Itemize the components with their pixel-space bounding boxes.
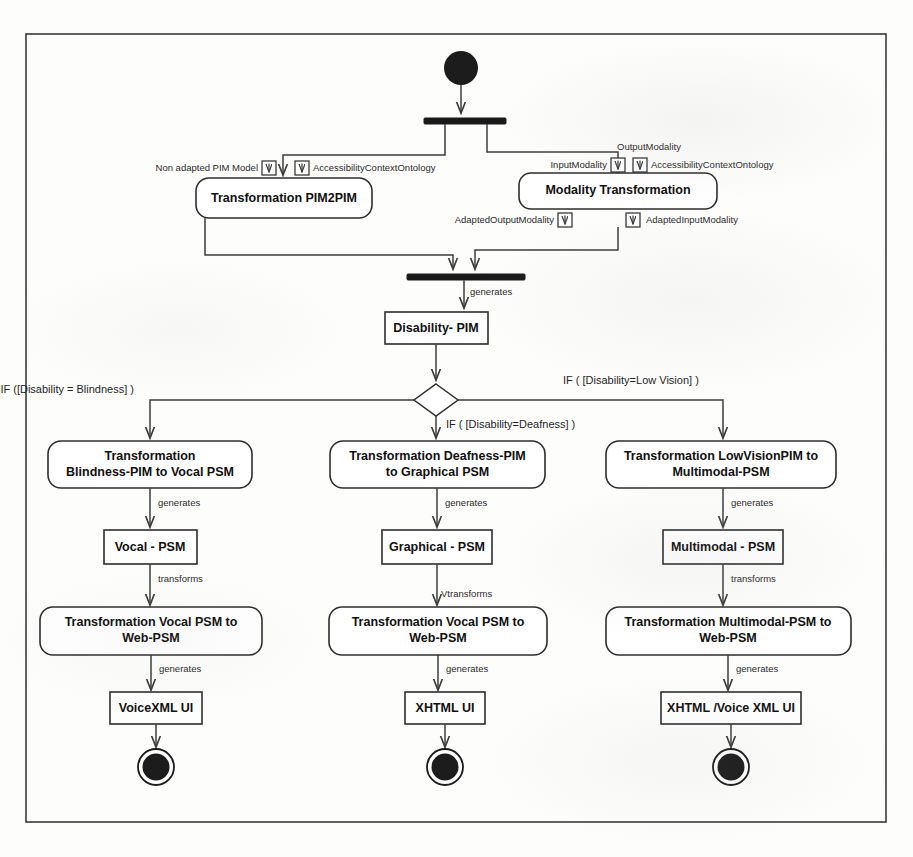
action-transformation-lowvision-pim-to-multimodal-psm[interactable]: Transformation LowVisionPIM to Multimoda… — [606, 441, 836, 488]
pin-input-modality: InputModality — [550, 158, 625, 172]
object-node-xhtml-voice-ui[interactable]: XHTML /Voice XML UI — [661, 692, 801, 724]
pin-accessibility-context-ontology-left: AccessibilityContextOntology — [295, 161, 436, 175]
edge-label-transforms-graphical: Vtransforms — [441, 588, 492, 599]
object-label-graphical-psm: Graphical - PSM — [389, 540, 485, 554]
action-label-deafness-line1: Transformation Deafness-PIM — [349, 449, 525, 463]
pin-adapted-output-modality: AdaptedOutputModality — [455, 213, 572, 227]
pin-label-accessibility-context-ontology-right: AccessibilityContextOntology — [651, 159, 774, 170]
pin-accessibility-context-ontology-right: AccessibilityContextOntology — [633, 158, 774, 172]
edge-pim2pim-to-join — [205, 218, 453, 269]
object-node-vocal-psm[interactable]: Vocal - PSM — [104, 530, 197, 564]
activity-diagram: Non adapted PIM Model AccessibilityConte… — [0, 0, 913, 857]
action-transformation-blindness-pim-to-vocal-psm[interactable]: Transformation Blindness-PIM to Vocal PS… — [48, 441, 252, 488]
action-label-deafness-line2: to Graphical PSM — [386, 465, 490, 479]
action-label-multimodal-web-line1: Transformation Multimodal-PSM to — [625, 615, 832, 629]
action-label-modality-transformation: Modality Transformation — [545, 183, 690, 197]
object-label-multimodal-psm: Multimodal - PSM — [671, 540, 775, 554]
action-label-lowvision-line1: Transformation LowVisionPIM to — [624, 449, 819, 463]
action-modality-transformation[interactable]: Modality Transformation — [519, 173, 717, 209]
edge-label-generates-disability-pim: generates — [470, 286, 513, 297]
object-node-voicexml-ui[interactable]: VoiceXML UI — [110, 692, 202, 724]
edge-label-generates-multimodal: generates — [731, 497, 774, 508]
guard-label-deafness: IF ( [Disability=Deafness] ) — [446, 418, 575, 430]
action-label-graphical-web-line2: Web-PSM — [409, 631, 466, 645]
pin-label-input-modality: InputModality — [550, 159, 607, 170]
guard-label-blindness: IF ([Disability = Blindness] ) — [0, 383, 134, 395]
pin-label-non-adapted-pim-model: Non adapted PIM Model — [156, 162, 258, 173]
action-label-graphical-web-line1: Transformation Vocal PSM to — [352, 615, 525, 629]
object-label-xhtml-ui: XHTML UI — [416, 701, 475, 715]
final-node-right — [713, 749, 749, 785]
action-label-vocal-web-line1: Transformation Vocal PSM to — [65, 615, 238, 629]
edge-label-generates-voicexml: generates — [159, 663, 202, 674]
pin-non-adapted-pim-model: Non adapted PIM Model — [156, 161, 276, 175]
pin-label-adapted-output-modality: AdaptedOutputModality — [455, 214, 555, 225]
final-node-left — [138, 749, 174, 785]
edge-label-transforms-vocal: transforms — [158, 573, 203, 584]
action-label-transformation-pim2pim: Transformation PIM2PIM — [211, 191, 357, 205]
edge-label-generates-graphical: generates — [445, 497, 488, 508]
object-node-xhtml-ui[interactable]: XHTML UI — [405, 692, 485, 724]
join-bar-middle — [407, 274, 525, 280]
action-label-lowvision-line2: Multimodal-PSM — [672, 465, 769, 479]
pin-label-adapted-input-modality: AdaptedInputModality — [646, 214, 738, 225]
action-transformation-deafness-pim-to-graphical-psm[interactable]: Transformation Deafness-PIM to Graphical… — [330, 441, 545, 488]
action-transformation-pim2pim[interactable]: Transformation PIM2PIM — [196, 178, 372, 218]
initial-node — [444, 51, 478, 85]
object-node-multimodal-psm[interactable]: Multimodal - PSM — [663, 530, 783, 564]
pin-label-accessibility-context-ontology-left: AccessibilityContextOntology — [313, 162, 436, 173]
edge-label-transforms-multimodal: transforms — [731, 573, 776, 584]
edge-label-generates-xhtml-voice: generates — [736, 663, 779, 674]
object-node-disability-pim[interactable]: Disability- PIM — [385, 312, 488, 344]
object-node-graphical-psm[interactable]: Graphical - PSM — [382, 530, 492, 564]
edge-decision-to-blindness — [150, 400, 414, 438]
guard-label-lowvision: IF ( [Disability=Low Vision] ) — [563, 374, 699, 386]
decision-diamond[interactable] — [414, 384, 458, 416]
action-transformation-vocal-psm-to-web-psm[interactable]: Transformation Vocal PSM to Web-PSM — [40, 607, 262, 655]
action-label-blindness-line1: Transformation — [105, 449, 196, 463]
diagram-canvas: Non adapted PIM Model AccessibilityConte… — [0, 0, 913, 857]
final-node-middle — [427, 749, 463, 785]
object-label-xhtml-voice-ui: XHTML /Voice XML UI — [667, 701, 795, 715]
object-label-vocal-psm: Vocal - PSM — [115, 540, 186, 554]
action-label-vocal-web-line2: Web-PSM — [122, 631, 179, 645]
action-transformation-multimodal-psm-to-web-psm[interactable]: Transformation Multimodal-PSM to Web-PSM — [606, 607, 851, 655]
edge-label-generates-vocal: generates — [158, 497, 201, 508]
pin-adapted-input-modality: AdaptedInputModality — [626, 213, 738, 227]
object-label-voicexml-ui: VoiceXML UI — [119, 701, 194, 715]
action-label-blindness-line2: Blindness-PIM to Vocal PSM — [66, 465, 234, 479]
edge-label-generates-xhtml: generates — [446, 663, 489, 674]
object-label-disability-pim: Disability- PIM — [393, 321, 478, 335]
pin-label-output-modality: OutputModality — [617, 141, 681, 152]
action-label-multimodal-web-line2: Web-PSM — [699, 631, 756, 645]
action-transformation-graphical-psm-to-web-psm[interactable]: Transformation Vocal PSM to Web-PSM — [329, 607, 547, 655]
edge-modality-to-join — [475, 227, 618, 269]
fork-bar-top — [424, 118, 506, 124]
